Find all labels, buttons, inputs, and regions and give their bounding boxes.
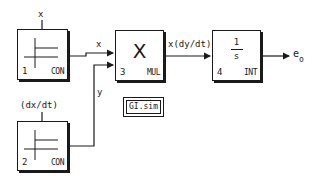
- signal-label-x: x: [96, 39, 101, 49]
- con-block-2[interactable]: 2 CON: [17, 121, 68, 171]
- block-type: CON: [51, 158, 64, 167]
- block-number: 4: [217, 67, 222, 77]
- wire-y: [70, 65, 113, 146]
- wire-x: [70, 53, 113, 56]
- block-number: 1: [22, 66, 27, 76]
- multiply-icon: X: [116, 39, 163, 63]
- con2-top-label: (dx/dt): [20, 100, 58, 110]
- signal-label-y: y: [97, 87, 102, 97]
- block-type: INT: [244, 68, 257, 77]
- block-diagram-canvas: x (dx/dt) 1 CON 2 CON X 3 MUL 1 s 4: [0, 0, 316, 186]
- block-type: MUL: [147, 68, 160, 77]
- file-name-box[interactable]: GI.sim: [123, 97, 164, 117]
- block-type: CON: [51, 67, 64, 76]
- con-block-1[interactable]: 1 CON: [17, 29, 68, 80]
- output-label: eo: [293, 48, 304, 62]
- block-number: 2: [22, 157, 27, 167]
- tf-denominator: s: [213, 51, 260, 62]
- fraction-bar: [231, 49, 243, 50]
- block-number: 3: [120, 67, 125, 77]
- output-subscript: o: [299, 55, 304, 64]
- tf-numerator: 1: [213, 37, 260, 48]
- con1-top-label: x: [38, 9, 43, 19]
- signal-label-product: x(dy/dt): [168, 39, 211, 49]
- file-name-label: GI.sim: [126, 100, 161, 114]
- integrator-transfer-function: 1 s: [213, 37, 260, 62]
- int-block-4[interactable]: 1 s 4 INT: [212, 30, 261, 81]
- mul-block-3[interactable]: X 3 MUL: [115, 30, 164, 81]
